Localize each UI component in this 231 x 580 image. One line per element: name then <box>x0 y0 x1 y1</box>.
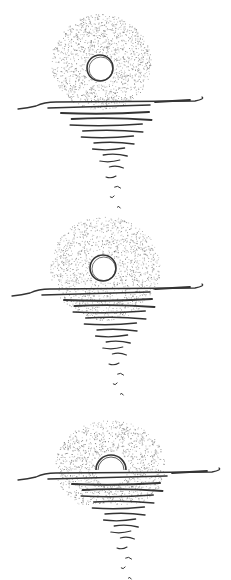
horizon-line <box>18 468 220 480</box>
horizon-line <box>18 97 203 109</box>
water-reflection <box>61 112 152 208</box>
stipple-glow <box>56 421 165 505</box>
water-reflection <box>64 299 155 395</box>
horizon-line <box>12 284 203 296</box>
water-reflection <box>72 483 163 579</box>
panel-sun-above-horizon <box>18 14 203 208</box>
panel-sun-half-set <box>18 421 220 579</box>
panel-sun-touching-horizon <box>12 217 203 395</box>
sunset-illustration <box>0 0 231 580</box>
